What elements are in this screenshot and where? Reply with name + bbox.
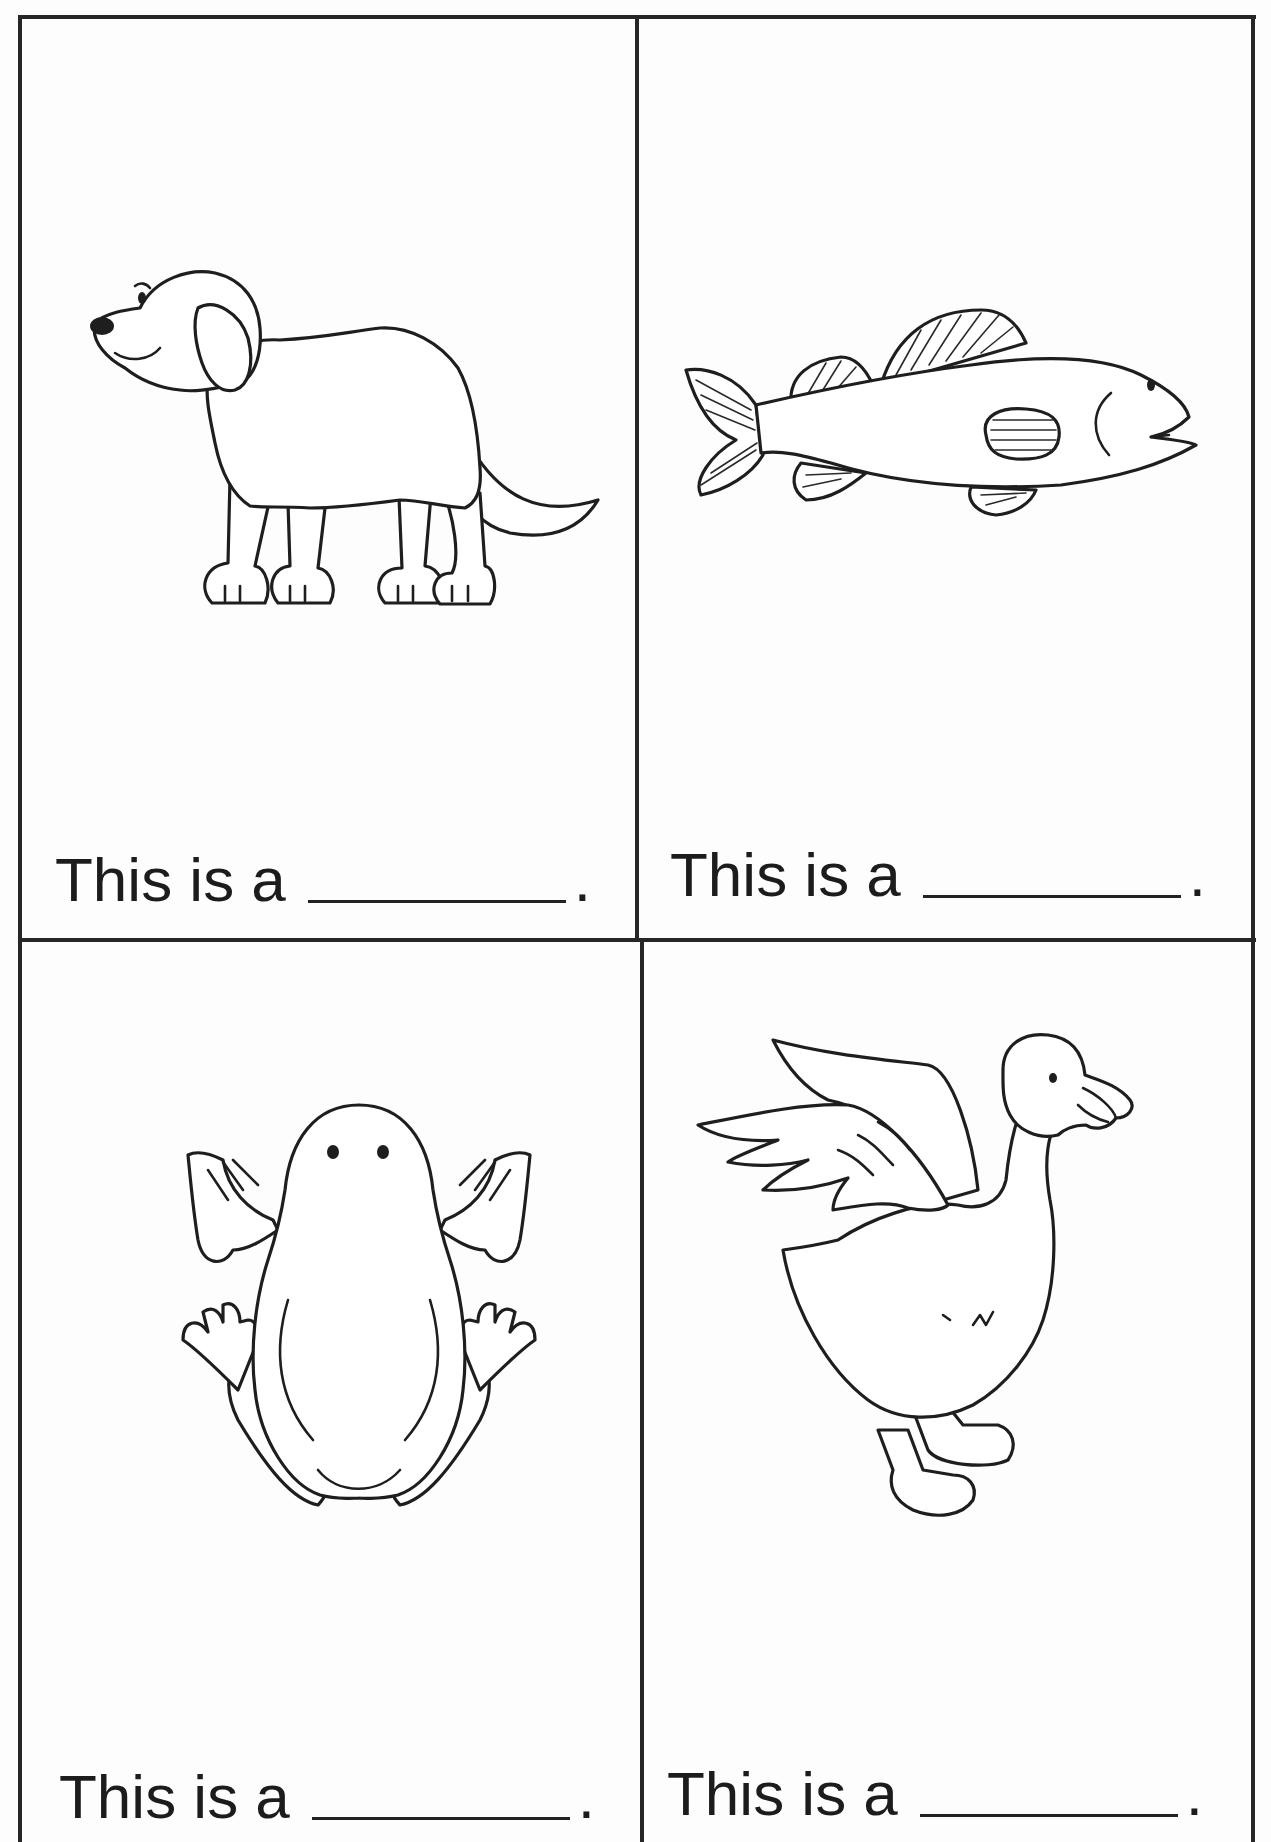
frog-illustration [178,1100,540,1516]
caption-period: . [578,1766,595,1828]
border-right [1251,15,1255,1842]
dog-illustration [80,268,602,608]
caption-fish: This is a . [670,836,1206,906]
answer-blank[interactable] [312,1817,570,1820]
caption-prefix: This is a [670,844,901,906]
frog-icon [178,1100,540,1516]
duck-illustration [688,1030,1144,1528]
duck-icon [688,1030,1144,1528]
caption-prefix: This is a [59,1766,290,1828]
card-dog: This is a . [22,19,635,938]
caption-dog: This is a . [55,841,591,911]
answer-blank[interactable] [308,900,566,903]
caption-prefix: This is a [667,1763,898,1825]
dog-icon [80,268,602,608]
caption-frog: This is a . [59,1758,595,1828]
caption-period: . [1186,1763,1203,1825]
caption-duck: This is a . [667,1755,1203,1825]
card-fish: This is a . [639,19,1251,938]
caption-period: . [1189,844,1206,906]
caption-period: . [574,849,591,911]
fish-icon [681,295,1199,517]
fish-illustration [681,295,1199,517]
worksheet-page: This is a . [0,0,1271,1842]
answer-blank[interactable] [923,895,1181,898]
caption-prefix: This is a [55,849,286,911]
card-frog: This is a . [22,942,640,1842]
card-duck: This is a . [644,942,1251,1842]
answer-blank[interactable] [920,1814,1178,1817]
